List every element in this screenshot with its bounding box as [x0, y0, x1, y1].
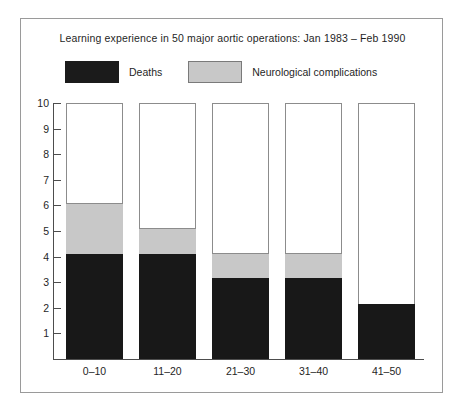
- y-axis-tick-label: 9: [43, 123, 49, 135]
- chart-title: Learning experience in 50 major aortic o…: [21, 32, 444, 44]
- y-axis-tick-label: 10: [37, 97, 49, 109]
- y-axis-tick-label: 4: [43, 251, 49, 263]
- legend-label-neurological-complications: Neurological complications: [252, 66, 377, 78]
- bar-segment-neurological: [285, 253, 342, 279]
- figure-frame: Learning experience in 50 major aortic o…: [20, 18, 443, 393]
- bar-group[interactable]: 31–40: [285, 103, 342, 359]
- y-axis-tick-label: 1: [43, 327, 49, 339]
- y-axis-tick-label: 5: [43, 225, 49, 237]
- bar-segment-deaths: [66, 254, 123, 359]
- legend-item-neurological-complications: Neurological complications: [188, 61, 377, 83]
- bar-group[interactable]: 0–10: [66, 103, 123, 359]
- y-axis-tick-label: 7: [43, 174, 49, 186]
- bars-layer: 0–1011–2021–3031–4041–50: [53, 103, 424, 359]
- y-axis-tick-label: 8: [43, 148, 49, 160]
- x-axis-line: [53, 359, 424, 360]
- x-axis-category-label: 21–30: [212, 365, 269, 377]
- x-axis-category-label: 11–20: [139, 365, 196, 377]
- legend-swatch-deaths-icon: [65, 61, 119, 83]
- y-axis-tick-label: 2: [43, 302, 49, 314]
- bar-segment-deaths: [285, 278, 342, 359]
- bar-segment-deaths: [212, 278, 269, 359]
- x-axis-category-label: 31–40: [285, 365, 342, 377]
- legend-item-deaths: Deaths: [65, 61, 162, 83]
- y-axis-tick-label: 3: [43, 276, 49, 288]
- bar-segment-deaths: [139, 254, 196, 359]
- x-axis-category-label: 0–10: [66, 365, 123, 377]
- bar-segment-neurological: [139, 228, 196, 254]
- bar-segment-deaths: [358, 304, 415, 359]
- bar-group[interactable]: 41–50: [358, 103, 415, 359]
- legend-label-deaths: Deaths: [129, 66, 162, 78]
- y-axis-tick-label: 6: [43, 199, 49, 211]
- bar-segment-neurological: [66, 203, 123, 254]
- bar-group[interactable]: 21–30: [212, 103, 269, 359]
- chart-legend: Deaths Neurological complications: [65, 61, 377, 83]
- bar-segment-neurological: [212, 253, 269, 279]
- legend-swatch-neurological-icon: [188, 61, 242, 83]
- bar-group[interactable]: 11–20: [139, 103, 196, 359]
- x-axis-category-label: 41–50: [358, 365, 415, 377]
- plot-area: 12345678910 0–1011–2021–3031–4041–50: [53, 103, 424, 359]
